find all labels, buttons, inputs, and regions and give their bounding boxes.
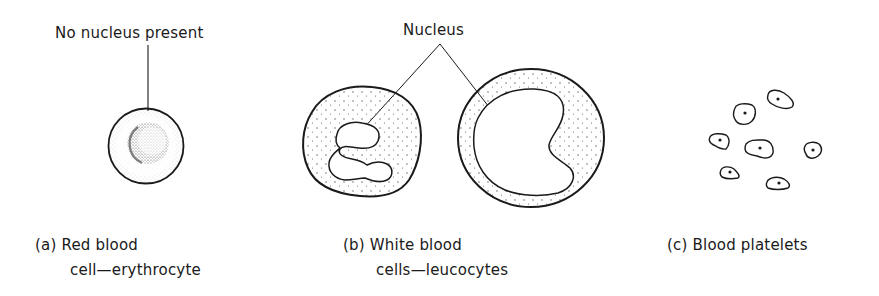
caption-b-line2: cells—leucocytes [376, 261, 508, 279]
caption-b-line1: (b) White blood [343, 236, 462, 254]
caption-a-line2: cell—erythrocyte [70, 261, 201, 279]
platelet [767, 90, 793, 108]
blood-platelets [709, 90, 821, 189]
annotation-nucleus: Nucleus [403, 21, 464, 39]
granulocyte [303, 86, 421, 196]
white-blood-cells [303, 44, 604, 207]
platelet [734, 104, 756, 125]
platelet [804, 142, 821, 158]
blood-cells-diagram: No nucleus present Nucleus (a) Red blood… [0, 0, 879, 296]
caption-a-line1: (a) Red blood [35, 236, 138, 254]
platelet [720, 167, 739, 179]
annotation-no-nucleus: No nucleus present [55, 24, 204, 42]
platelet [766, 177, 789, 189]
platelet [745, 140, 773, 158]
caption-c: (c) Blood platelets [667, 236, 808, 254]
red-blood-cell [109, 45, 184, 184]
platelet [709, 134, 729, 149]
monocyte [458, 69, 604, 207]
